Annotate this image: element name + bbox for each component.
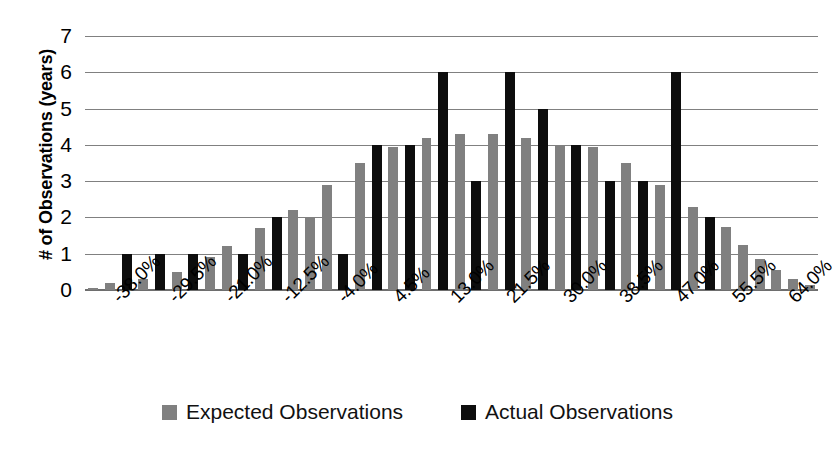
- legend-entry-1[interactable]: Actual Observations: [461, 400, 673, 424]
- bar-expected-18: [388, 147, 398, 290]
- legend-label-0: Expected Observations: [186, 400, 403, 424]
- bar-series-group: [85, 36, 818, 290]
- plot-area: [85, 36, 818, 290]
- chart-legend: Expected ObservationsActual Observations: [0, 400, 835, 424]
- square-swatch-black-icon: [461, 405, 476, 420]
- bar-expected-0: [88, 288, 98, 290]
- y-tick-label-5: 5: [38, 98, 72, 119]
- legend-label-1: Actual Observations: [485, 400, 673, 424]
- bar-actual-35: [671, 72, 681, 290]
- bar-expected-38: [721, 227, 731, 291]
- y-tick-label-2: 2: [38, 206, 72, 227]
- bar-actual-29: [571, 145, 581, 290]
- y-tick-label-3: 3: [38, 170, 72, 191]
- x-axis-tick-labels: -38.0%-29.5%-21.0%-12.5%-4.0%4.5%13.0%21…: [85, 292, 818, 384]
- bar-expected-32: [621, 163, 631, 290]
- y-tick-label-1: 1: [38, 243, 72, 264]
- y-tick-label-7: 7: [38, 25, 72, 46]
- bar-expected-28: [555, 145, 565, 290]
- legend-entry-0[interactable]: Expected Observations: [162, 400, 403, 424]
- bar-actual-11: [272, 217, 282, 290]
- bar-actual-25: [505, 72, 515, 290]
- bar-expected-22: [455, 134, 465, 290]
- square-swatch-gray-icon: [162, 405, 177, 420]
- y-tick-label-0: 0: [38, 279, 72, 300]
- y-tick-label-4: 4: [38, 134, 72, 155]
- y-tick-label-6: 6: [38, 61, 72, 82]
- bar-actual-21: [438, 72, 448, 290]
- histogram-chart: # of Observations (years) 76543210 -38.0…: [0, 0, 835, 459]
